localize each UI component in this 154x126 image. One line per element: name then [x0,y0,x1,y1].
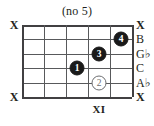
note-label-string-1: X [136,19,145,31]
note-label-string-4: C [136,62,144,74]
finger-dot-4: 4 [114,32,129,47]
string-line-5 [22,83,132,84]
finger-dot-3: 3 [92,46,107,61]
finger-dot-1: 1 [70,61,85,76]
mute-x-string-1: X [10,19,19,31]
fret-line-3 [88,25,89,97]
nut-line [22,25,24,97]
fret-line-5 [132,25,134,97]
fret-line-1 [44,25,45,97]
mute-x-string-6: X [10,91,19,103]
fret-line-4 [110,25,111,97]
note-label-string-6: X [136,91,145,103]
note-label-string-5: A♭ [136,77,150,89]
note-label-string-3: G♭ [136,48,150,60]
chord-title: (no 5) [0,5,154,18]
finger-dot-2: 2 [92,75,107,90]
string-line-6 [22,97,132,99]
note-label-string-2: B [136,33,144,45]
string-line-1 [22,25,132,27]
string-line-3 [22,54,132,55]
chord-diagram: (no 5) XI XXXBG♭CA♭X1234 [0,0,154,126]
fret-position-label: XI [93,103,106,115]
fret-line-2 [66,25,67,97]
